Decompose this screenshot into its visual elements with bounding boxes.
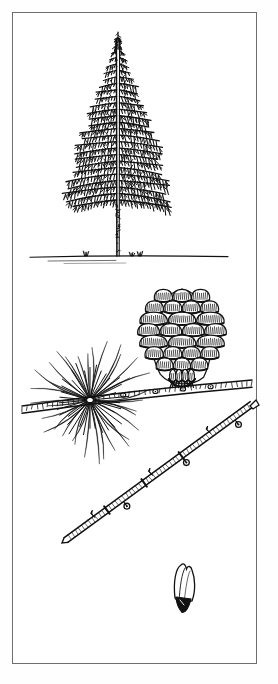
figure-winter-twig [12, 400, 258, 570]
twig-drawing [12, 400, 258, 570]
tree-habit-drawing [12, 14, 258, 276]
illustration-plate [0, 0, 278, 684]
figure-whole-tree-habit [12, 14, 258, 276]
figure-winged-seed [12, 546, 258, 626]
seed-drawing [12, 546, 258, 626]
